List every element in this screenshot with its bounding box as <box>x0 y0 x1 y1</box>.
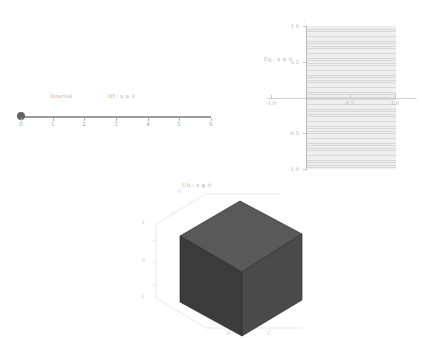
cube-graphic <box>130 180 310 338</box>
region-plot-y-tick-label: 0.5 <box>277 59 299 65</box>
cube-axis-label-bottom: 0 <box>227 331 230 336</box>
number-line-tick-label: 5 <box>169 121 189 127</box>
number-line-tick-label: 2 <box>74 121 94 127</box>
number-line-tick-label: 4 <box>138 121 158 127</box>
region-plot-y-tick <box>303 26 306 27</box>
interval-caption-left: Interval <box>50 93 72 99</box>
region-plot-y-tick <box>303 169 306 170</box>
three-d-box-plot: Ult : x ≥ 0 0 1 1 0 -1 0 1 <box>130 180 310 338</box>
region-plot-y-tick-label: -0.5 <box>277 130 299 136</box>
cube-axis-label-top: 0 <box>178 189 181 194</box>
interval-number-line-plot: Interval IIf : x ≥ 0 0 1 2 3 4 5 6 <box>0 80 230 140</box>
cube-axis-label-left: 1 <box>142 220 145 225</box>
region-plot-x-tick <box>350 95 351 98</box>
interval-caption-right: IIf : x ≥ 0 <box>108 93 135 99</box>
cube-axis-label-bottom: 1 <box>267 331 270 336</box>
region-plot-x-axis <box>268 98 416 99</box>
region-plot-y-tick-label: 1.0 <box>277 23 299 29</box>
region-plot-x-tick-label: -1.0 <box>259 100 283 106</box>
shaded-region-plot: Eq : x ≥ 0 › ‹ 1.0 0.5 -0.5 -1.0 -1.0 0.… <box>262 12 422 182</box>
number-line-tick-label: 0 <box>11 121 31 127</box>
cube-axis-label-left: -1 <box>140 294 145 299</box>
y-axis-arrow-icon: ‹ <box>304 18 306 23</box>
number-line-tick-label: 1 <box>43 121 63 127</box>
region-plot-x-tick-label: 1.0 <box>383 100 407 106</box>
region-plot-x-tick-label: 0.5 <box>338 100 362 106</box>
x-axis-arrow-icon: › <box>415 96 417 101</box>
region-plot-y-tick <box>303 62 306 63</box>
cube-axis-label-left: 0 <box>142 258 145 263</box>
region-plot-x-tick <box>395 95 396 98</box>
number-line-tick-label: 3 <box>106 121 126 127</box>
region-plot-y-axis <box>306 26 307 170</box>
region-plot-y-tick-label: -1.0 <box>277 166 299 172</box>
number-line-tick-label: 6 <box>201 121 221 127</box>
cube-axis-label-top: 1 <box>202 184 205 189</box>
region-plot-x-tick <box>271 95 272 98</box>
region-plot-y-tick <box>303 133 306 134</box>
